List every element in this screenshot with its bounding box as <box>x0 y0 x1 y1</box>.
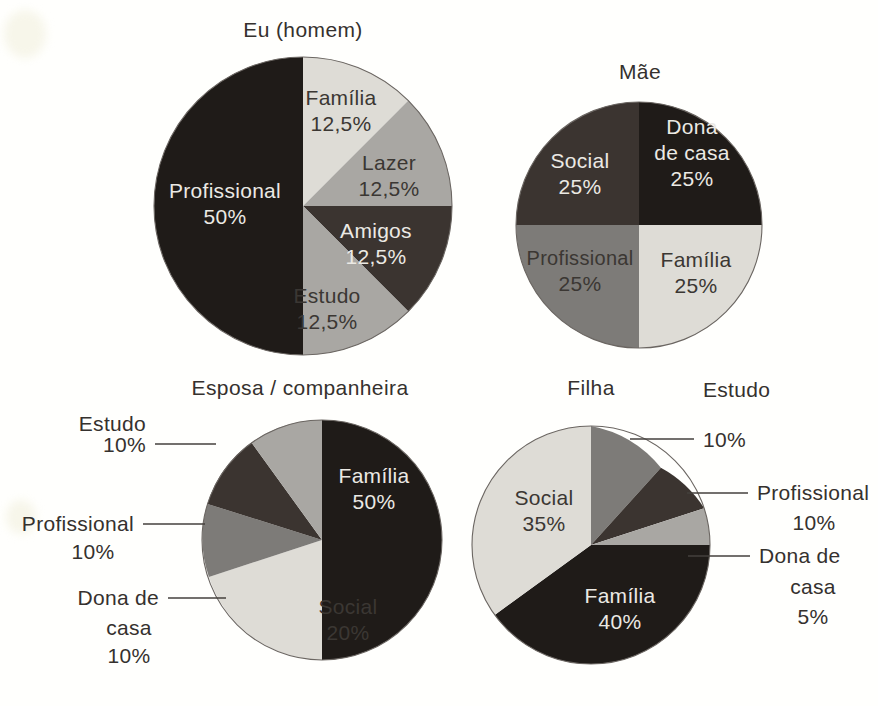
chart-esposa-companheira: Esposa / companheira Família 50% Social … <box>0 360 470 706</box>
chart-title-mae: Mãe <box>570 60 710 84</box>
slice-label-social-value: 25% <box>559 175 602 198</box>
slice-label-profissional-name: Profissional <box>169 179 281 202</box>
slice-label-familia-value: 25% <box>675 274 718 297</box>
callout-profissional-label: Profissional <box>757 481 869 504</box>
pie-svg-esposa-companheira: Família 50% Social 20% Estudo 10% Profis… <box>0 360 470 706</box>
callout-estudo-label: Estudo <box>79 412 146 435</box>
callout-dona-de-casa-value: 10% <box>108 644 151 667</box>
pie-charts-figure: Eu (homem) Profissional 50% Família 12,5… <box>0 0 878 706</box>
chart-eu-homem: Eu (homem) Profissional 50% Família 12,5… <box>0 0 470 370</box>
chart-title-esposa-companheira: Esposa / companheira <box>150 376 450 400</box>
slice-label-familia-name: Família <box>339 464 410 487</box>
slice-label-social-name: Social <box>319 595 378 618</box>
slice-label-familia-value: 50% <box>353 490 396 513</box>
callout-dona-de-casa-label2: casa <box>790 575 836 598</box>
slice-label-social-name: Social <box>551 149 610 172</box>
callout-profissional-value: 10% <box>793 511 836 534</box>
slice-label-familia-value: 40% <box>599 610 642 633</box>
chart-title-filha: Filha <box>536 376 646 400</box>
callout-estudo-value: 10% <box>103 433 146 456</box>
slice-label-social-value: 20% <box>327 621 370 644</box>
slice-label-familia-name: Família <box>661 248 732 271</box>
callout-estudo-label: Estudo <box>703 378 770 401</box>
slice-label-profissional-value: 25% <box>559 272 602 295</box>
slice-label-amigos-name: Amigos <box>340 219 412 242</box>
slice-label-lazer-name: Lazer <box>362 151 416 174</box>
chart-mae: Mãe Donade casa 25% Família 25% Profissi… <box>470 0 878 370</box>
callout-estudo-value: 10% <box>703 428 746 451</box>
slice-label-profissional-name: Profissional <box>527 247 634 269</box>
chart-title-eu-homem: Eu (homem) <box>148 18 458 42</box>
slice-label-familia-name: Família <box>306 86 377 109</box>
pie-svg-eu-homem: Profissional 50% Família 12,5% Lazer 12,… <box>0 0 470 370</box>
pie-svg-filha: Social 35% Família 40% Estudo 10% Profis… <box>460 360 878 706</box>
slice-label-familia-value: 12,5% <box>310 112 371 135</box>
slice-label-lazer-value: 12,5% <box>358 177 419 200</box>
slice-label-amigos-value: 12,5% <box>345 245 406 268</box>
pie-svg-mae: Donade casa 25% Família 25% Profissional… <box>470 0 878 370</box>
callout-profissional-value: 10% <box>72 540 115 563</box>
callout-dona-de-casa-label2: casa <box>106 616 152 639</box>
callout-dona-de-casa-label: Dona de <box>759 544 841 567</box>
slice-label-dona-de-casa-value: 25% <box>671 167 714 190</box>
slice-label-social-value: 35% <box>523 512 566 535</box>
slice-label-estudo-name: Estudo <box>293 284 360 307</box>
callout-dona-de-casa-label: Dona de <box>78 586 160 609</box>
slice-label-familia-name: Família <box>585 584 656 607</box>
callout-profissional-label: Profissional <box>22 512 134 535</box>
callout-dona-de-casa-value: 5% <box>798 605 829 628</box>
slice-label-estudo-value: 12,5% <box>296 310 357 333</box>
slice-label-profissional-value: 50% <box>204 205 247 228</box>
slice-label-social-name: Social <box>515 486 574 509</box>
chart-filha: Filha Social 35% Família 40% Estudo 10% … <box>460 360 878 706</box>
